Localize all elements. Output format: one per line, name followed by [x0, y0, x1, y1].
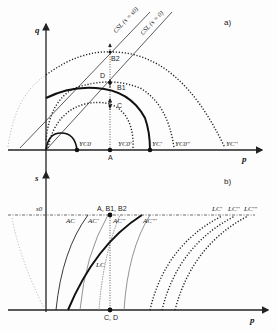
lc2-label: LC'' — [228, 206, 240, 213]
q-axis-label: q — [35, 26, 40, 35]
ac2-label: AC'' — [113, 218, 125, 225]
ac-curve — [56, 215, 88, 310]
yc-double-prime-curve — [46, 52, 225, 148]
point-cd-marker — [108, 308, 113, 313]
s0-label: s0 — [36, 206, 42, 213]
point-b2-label: B2 — [111, 55, 120, 62]
diagram-canvas — [0, 0, 277, 332]
point-ab-marker — [108, 213, 113, 218]
top-point-label: A, B1, B2 — [97, 205, 127, 212]
lc3-curve — [175, 216, 248, 310]
figure: a) q p CSL (s = s0) CSL (s = 0) YC0 YC0'… — [0, 0, 277, 332]
yc0-prime-label: YC0' — [118, 141, 132, 148]
panel-b-tag: b) — [224, 178, 231, 186]
point-c-marker — [109, 105, 112, 108]
faint-left-curve — [12, 218, 44, 308]
lc-label: LC — [96, 262, 105, 269]
yc-prime-label: YC' — [152, 141, 162, 148]
csl-line-0 — [46, 12, 172, 150]
yc-double-prime-label: YC'' — [226, 141, 238, 148]
s-axis-label: s — [35, 174, 39, 183]
panel-b — [8, 172, 268, 312]
lc1-label: LC' — [212, 206, 222, 213]
panel-a-tag: a) — [224, 19, 231, 27]
point-a-label: A — [108, 154, 113, 161]
ac3-curve — [124, 215, 150, 310]
ac3-label: AC''' — [143, 218, 156, 225]
point-c-label: C — [117, 102, 122, 109]
lc1-curve — [150, 216, 222, 310]
p-axis-b-label: p — [250, 316, 255, 325]
yc0-curve — [46, 133, 77, 150]
panel-a — [8, 12, 262, 172]
point-b1-marker — [109, 82, 112, 85]
ac1-label: AC' — [88, 218, 98, 225]
point-b2-marker — [109, 51, 112, 54]
lc3-label: LC''' — [244, 206, 257, 213]
ac-label: AC — [66, 218, 75, 225]
yc0-double-prime-label: YC0'' — [175, 141, 190, 148]
yc0-label: YC0 — [79, 141, 91, 148]
bottom-point-label: C, D — [104, 314, 118, 321]
point-d-label: D — [100, 72, 105, 79]
faint-yield-arc — [8, 75, 46, 147]
lc2-curve — [162, 216, 235, 310]
point-b1-label: B1 — [117, 84, 126, 91]
point-yc0-marker — [75, 148, 80, 153]
p-axis-a-label: p — [242, 155, 247, 164]
point-a-marker — [108, 148, 113, 153]
point-yc-marker — [148, 148, 153, 153]
